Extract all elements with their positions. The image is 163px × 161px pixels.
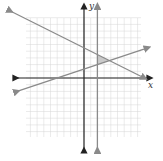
x-axis-label: x — [148, 80, 153, 90]
coordinate-graph — [0, 0, 163, 161]
y-axis-label: y — [89, 1, 94, 11]
